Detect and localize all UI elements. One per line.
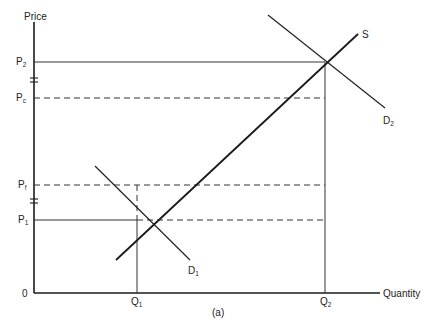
- price-label-pc: Pc: [16, 92, 27, 104]
- supply-label: S: [362, 29, 369, 40]
- quantity-label-q1: Q1: [131, 296, 143, 308]
- supply-curve: [116, 34, 358, 260]
- supply-demand-diagram: Price Quantity 0 P2 Pc Pf P1 Q1 Q2 S D1 …: [0, 0, 441, 335]
- demand-curve-d1: [95, 166, 190, 260]
- quantity-label-q2: Q2: [320, 296, 332, 308]
- figure-caption: (a): [212, 307, 224, 318]
- y-axis-label: Price: [24, 11, 47, 22]
- d2-label: D2: [383, 115, 394, 127]
- d1-label: D1: [188, 265, 199, 277]
- x-axis-label: Quantity: [383, 288, 420, 299]
- price-label-p2: P2: [16, 56, 27, 68]
- price-label-pf: Pf: [18, 179, 27, 191]
- origin-label: 0: [22, 288, 28, 299]
- price-label-p1: P1: [18, 214, 29, 226]
